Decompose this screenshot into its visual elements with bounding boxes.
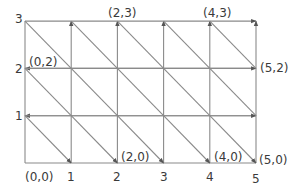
x-tick-1: 1: [67, 170, 75, 184]
grid-edges: [25, 21, 256, 163]
diagonal-edge: [71, 68, 117, 115]
x-tick-2: 2: [113, 170, 121, 184]
x-tick-4: 4: [206, 170, 214, 184]
diagonal-edge: [25, 68, 71, 115]
y-tick-3: 3: [15, 12, 23, 26]
diagonal-edge: [117, 21, 163, 68]
diagonal-edge: [164, 68, 210, 115]
diagonal-edge: [25, 116, 71, 163]
diagonal-edge: [210, 21, 256, 68]
y-tick-2: 2: [15, 62, 23, 76]
diagonal-edge: [164, 116, 210, 163]
point-label-2-0: (2,0): [121, 150, 149, 164]
point-label-0-2: (0,2): [29, 55, 57, 69]
diagonal-edge: [164, 21, 210, 68]
point-label-0-0: (0,0): [25, 170, 53, 184]
point-label-5-2: (5,2): [260, 61, 288, 75]
grid-diagram: 1 2 3 4 5 1 2 3 (0,0) (2,0) (4,0) (5,0) …: [0, 0, 296, 188]
x-tick-3: 3: [160, 170, 168, 184]
point-label-2-3: (2,3): [108, 6, 136, 20]
diagonal-edge: [71, 116, 117, 163]
diagonal-edge: [117, 68, 163, 115]
point-label-4-3: (4,3): [203, 6, 231, 20]
y-tick-1: 1: [15, 109, 23, 123]
point-label-4-0: (4,0): [214, 150, 242, 164]
x-tick-5: 5: [252, 172, 260, 186]
point-label-5-0: (5,0): [259, 153, 287, 167]
diagonal-edge: [71, 21, 117, 68]
diagonal-edge: [210, 68, 256, 115]
